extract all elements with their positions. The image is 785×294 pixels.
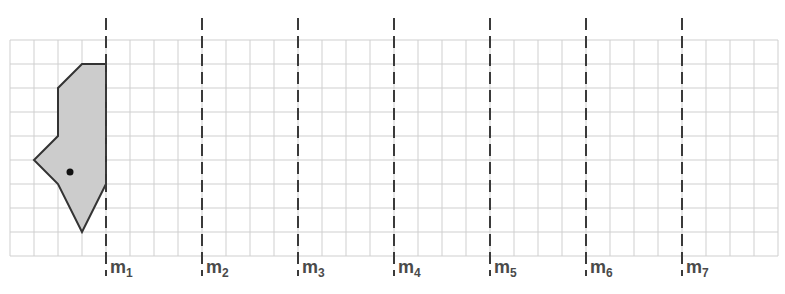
mirror-label-letter: m	[302, 257, 318, 277]
mirror-label-letter: m	[398, 257, 414, 277]
mirror-label-m1: m1	[110, 257, 133, 280]
mirror-label-m6: m6	[590, 257, 613, 280]
mirror-label-m3: m3	[302, 257, 325, 280]
shape-center-dot	[67, 169, 74, 176]
mirror-label-subscript: 7	[702, 266, 709, 280]
diagram-canvas	[0, 0, 785, 294]
mirror-label-m5: m5	[494, 257, 517, 280]
mirror-label-subscript: 6	[606, 266, 613, 280]
mirror-label-letter: m	[590, 257, 606, 277]
mirror-label-subscript: 5	[510, 266, 517, 280]
mirror-label-letter: m	[206, 257, 222, 277]
shape-polygon	[34, 64, 106, 232]
mirror-label-subscript: 4	[414, 266, 421, 280]
mirror-label-m7: m7	[686, 257, 709, 280]
mirror-label-letter: m	[686, 257, 702, 277]
mirror-label-letter: m	[110, 257, 126, 277]
mirror-label-subscript: 3	[318, 266, 325, 280]
mirror-label-m2: m2	[206, 257, 229, 280]
mirror-label-letter: m	[494, 257, 510, 277]
mirror-label-subscript: 1	[126, 266, 133, 280]
mirror-diagram: m1m2m3m4m5m6m7	[0, 0, 785, 294]
mirror-label-subscript: 2	[222, 266, 229, 280]
mirror-label-m4: m4	[398, 257, 421, 280]
